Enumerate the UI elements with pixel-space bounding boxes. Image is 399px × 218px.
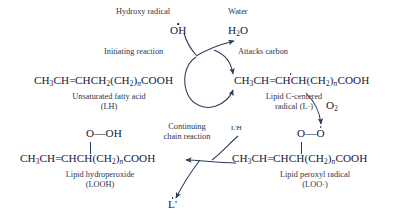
o2-sub: 2 xyxy=(334,105,338,113)
peroxyl-o2: O xyxy=(316,127,324,139)
arrow-chain-propagation xyxy=(186,160,236,163)
lprime-h-label: L'H xyxy=(231,125,242,132)
peroxyl-dash: — xyxy=(305,127,316,139)
cc-p2: CH xyxy=(253,74,269,86)
px-p0: CH xyxy=(232,152,248,164)
hydroperoxide-head-group: O—OH xyxy=(86,128,122,140)
cc-p4: CHCH xyxy=(275,74,306,86)
unsaturated-fatty-acid-formula: CH3CH=CHCH2(CH2)nCOOH xyxy=(34,75,173,88)
unsaturated-fatty-acid-name-line1: Unsaturated fatty acid xyxy=(34,92,184,101)
water-formula: H2O xyxy=(228,25,248,38)
fa-p10: COOH xyxy=(141,74,173,86)
hydroxy-radical-label: Hydroxy radical xyxy=(116,8,170,17)
hp-p2: CH xyxy=(39,152,55,164)
lipid-hydroperoxide-name-line1: Lipid hydroperoxide xyxy=(20,170,180,179)
lipid-peroxyl-radical-formula: CH3CH=CHCH(CH2)nCOOH xyxy=(232,153,367,166)
hydroperoxide-o1: O xyxy=(86,127,94,139)
hydroperoxide-oh: OH xyxy=(105,127,121,139)
lipid-hydroperoxide-formula: CH3CH=CHCH(CH2)nCOOH xyxy=(20,153,155,166)
px-p5: (CH xyxy=(304,152,324,164)
px-p9: COOH xyxy=(335,152,367,164)
fa-p0: CH xyxy=(34,74,50,86)
px-p2: CH xyxy=(251,152,267,164)
cc-p0: CH xyxy=(234,74,250,86)
fa-p4: CHCH xyxy=(75,74,106,86)
lipid-peroxyl-radical-name-line1: Lipid peroxyl radical xyxy=(240,170,390,179)
hp-p5: (CH xyxy=(92,152,112,164)
hp-p9: COOH xyxy=(123,152,155,164)
water-h: H xyxy=(228,24,236,36)
oxygen-molecule-formula: O2 xyxy=(326,100,338,113)
px-p4: CHCH xyxy=(273,152,304,164)
cc-p9: COOH xyxy=(337,74,369,86)
c-centered-radical-formula: CH3CH=CHCH(CH2)nCOOH xyxy=(234,75,369,88)
attacks-carbon-label: Attacks carbon xyxy=(238,48,288,57)
water-label: Water xyxy=(228,8,248,17)
arrow-to-water xyxy=(196,41,234,56)
hydroxy-radical-formula: OH xyxy=(170,25,186,37)
hydroxy-radical-text: OH xyxy=(170,24,186,36)
hydroperoxide-dash: — xyxy=(94,127,105,139)
continuing-chain-reaction-line2: chain reaction xyxy=(148,132,226,141)
lipid-peroxidation-diagram: Hydroxy radical OH Water H2O Initiating … xyxy=(0,0,399,218)
o2-o: O xyxy=(326,99,334,111)
hp-p4: CHCH xyxy=(61,152,92,164)
fa-p6: (CH xyxy=(110,74,130,86)
water-o: O xyxy=(240,24,248,36)
continuing-chain-reaction-line1: Continuing xyxy=(148,122,226,131)
lprime-radical-label: L' xyxy=(168,199,177,211)
peroxyl-o1: O xyxy=(297,127,305,139)
lprime-radical-text: L' xyxy=(168,198,177,210)
hp-p0: CH xyxy=(20,152,36,164)
initiating-reaction-label: Initiating reaction xyxy=(104,48,163,57)
cc-p5: (CH xyxy=(306,74,326,86)
arrow-cycle-close xyxy=(216,90,233,106)
lipid-peroxyl-radical-name-line2: (LOO·) xyxy=(240,180,390,189)
arc-cycle-left xyxy=(185,57,216,107)
unsaturated-fatty-acid-name-line2: (LH) xyxy=(34,102,184,111)
arrow-to-c-centered-radical xyxy=(214,50,233,74)
fa-p2: CH xyxy=(53,74,69,86)
lipid-hydroperoxide-name-line2: (LOOH) xyxy=(20,180,180,189)
peroxyl-head-group: O—O xyxy=(297,128,325,140)
